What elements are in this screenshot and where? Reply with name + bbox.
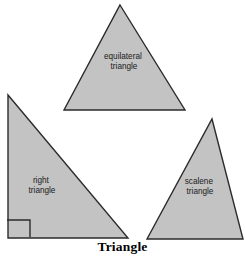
equilateral-label-line1: equilateral [104, 52, 142, 61]
scalene-label-line1: scalene [185, 177, 214, 186]
right-triangle-shape [8, 95, 128, 238]
right-label-line2: triangle [29, 186, 56, 195]
equilateral-label-line2: triangle [111, 62, 138, 71]
scalene-triangle-label: scalene triangle [185, 177, 216, 196]
figure-caption: Triangle [0, 239, 245, 255]
right-label-line1: right [33, 176, 50, 185]
triangle-figure: equilateral triangle right triangle scal… [0, 0, 245, 257]
scalene-label-line2: triangle [187, 187, 214, 196]
triangles-illustration: equilateral triangle right triangle scal… [0, 0, 245, 257]
